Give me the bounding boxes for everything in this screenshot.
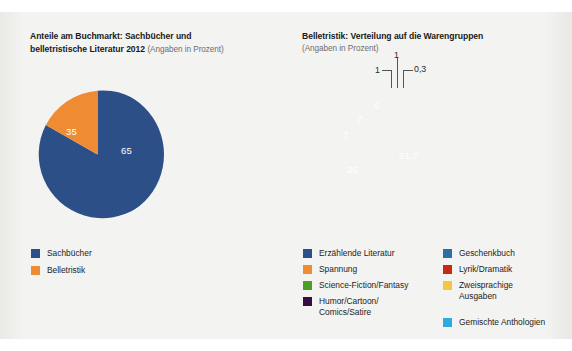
right-chart-panel: Belletristik: Verteilung auf die Warengr…	[290, 12, 572, 339]
left-chart-panel: Anteile am Buchmarkt: Sachbücher und bel…	[0, 12, 290, 339]
left-pie-chart	[31, 88, 164, 221]
right-title-line1: Belletristik: Verteilung auf die Warengr…	[302, 31, 483, 41]
legend-swatch-icon	[303, 281, 312, 290]
leader-line-lightblue-v	[403, 70, 404, 88]
legend-item-gemischte-anthologien[interactable]: Gemischte Anthologien	[443, 317, 572, 328]
left-chart-title: Anteile am Buchmarkt: Sachbücher und bel…	[30, 30, 280, 56]
left-chart-legend: Sachbücher Belletristik	[31, 248, 92, 282]
legend-label: Spannung	[319, 264, 357, 275]
leader-line-yellow-v	[397, 58, 398, 88]
right-chart-legend-column-b: Geschenkbuch Lyrik/Dramatik Zweisprachig…	[443, 248, 572, 334]
left-pie-label-65: 65	[121, 145, 132, 156]
legend-label: Zweisprachige Ausgaben	[459, 280, 513, 302]
legend-label: Erzählende Literatur	[319, 248, 394, 259]
right-pie-label-7-humor: 7	[357, 113, 362, 124]
legend-swatch-icon	[443, 249, 452, 258]
legend-item-lyrik-dramatik[interactable]: Lyrik/Dramatik	[443, 264, 572, 275]
legend-item-science-fiction-fantasy[interactable]: Science-Fiction/Fantasy	[303, 280, 443, 291]
legend-swatch-icon	[31, 249, 40, 258]
legend-item-humor-cartoon-comics-satire[interactable]: Humor/Cartoon/ Comics/Satire	[303, 296, 443, 318]
legend-label: Geschenkbuch	[459, 248, 515, 259]
legend-swatch-icon	[303, 297, 312, 306]
right-chart-legend-column-a: Erzählende Literatur Spannung Science-Fi…	[303, 248, 443, 324]
legend-label: Lyrik/Dramatik	[459, 264, 512, 275]
legend-label: Humor/Cartoon/ Comics/Satire	[319, 296, 379, 318]
legend-gap	[443, 308, 572, 317]
legend-item-spannung[interactable]: Spannung	[303, 264, 443, 275]
legend-swatch-icon	[443, 281, 452, 290]
right-chart-title: Belletristik: Verteilung auf die Warengr…	[302, 30, 570, 55]
right-title-note: (Angaben in Prozent)	[302, 44, 378, 53]
legend-label: Sachbücher	[47, 248, 92, 259]
legend-swatch-icon	[303, 265, 312, 274]
legend-item-zweisprachige-ausgaben[interactable]: Zweisprachige Ausgaben	[443, 280, 572, 302]
legend-item-belletristik[interactable]: Belletristik	[31, 265, 92, 276]
leader-line-red-v	[391, 70, 392, 88]
legend-item-geschenkbuch[interactable]: Geschenkbuch	[443, 248, 572, 259]
legend-swatch-icon	[443, 265, 452, 274]
leader-line-lightblue-h	[403, 70, 413, 71]
legend-label: Belletristik	[47, 265, 85, 276]
right-pie-label-7-sf: 7	[343, 129, 348, 140]
right-pie-callout-0-3: 0,3	[414, 64, 426, 74]
legend-item-sachbuecher[interactable]: Sachbücher	[31, 248, 92, 259]
legend-label: Science-Fiction/Fantasy	[319, 280, 408, 291]
legend-swatch-icon	[31, 266, 40, 275]
left-pie-label-35: 35	[66, 126, 77, 137]
legend-swatch-icon	[303, 249, 312, 258]
left-title-line2: belletristische Literatur 2012	[30, 44, 145, 54]
right-pie-label-26: 26	[347, 164, 358, 175]
right-pie-label-6: 6	[374, 100, 379, 111]
left-title-line1: Anteile am Buchmarkt: Sachbücher und	[30, 31, 192, 41]
legend-swatch-icon	[443, 318, 452, 327]
infographic-page: Anteile am Buchmarkt: Sachbücher und bel…	[0, 0, 572, 351]
legend-label: Gemischte Anthologien	[459, 317, 545, 328]
right-pie-label-51-7: 51,7	[399, 150, 418, 161]
left-title-note: (Angaben in Prozent)	[147, 45, 223, 54]
legend-item-erzaehlende-literatur[interactable]: Erzählende Literatur	[303, 248, 443, 259]
right-pie-callout-1-red: 1	[375, 65, 380, 75]
